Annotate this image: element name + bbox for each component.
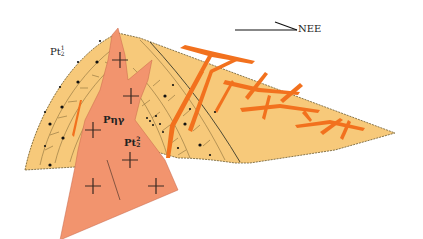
label-pt2-2: Pt22	[124, 137, 140, 149]
geology-diagram	[0, 0, 423, 239]
direction-arrow	[235, 22, 297, 30]
label-pt2-1: Pt12	[50, 46, 65, 58]
label-granite: Pηγ	[103, 115, 124, 125]
direction-label: NEE	[298, 24, 321, 34]
